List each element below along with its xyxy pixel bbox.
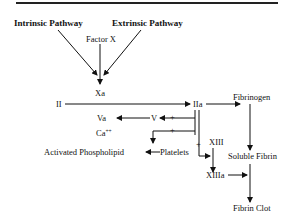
ii-label: II: [56, 100, 62, 109]
ca-label: Ca++: [96, 129, 112, 138]
pathway-arrows: [0, 0, 291, 220]
xa-label: Xa: [95, 89, 105, 98]
plus-sign-xiii: +: [196, 140, 201, 149]
soluble-fibrin-label: Soluble Fibrin: [228, 152, 277, 161]
va-label: Va: [97, 114, 106, 123]
xiiia-label: XIIIa: [206, 171, 224, 180]
fibrinogen-label: Fibrinogen: [233, 93, 270, 102]
plus-sign-v: +: [170, 113, 175, 122]
v-label: V: [151, 114, 157, 123]
ca-charge: ++: [105, 128, 111, 134]
platelets-label: Platelets: [160, 148, 189, 157]
extrinsic-pathway-label: Extrinsic Pathway: [112, 19, 183, 28]
fibrin-clot-label: Fibrin Clot: [233, 204, 271, 213]
plus-sign-platelets: +: [170, 126, 175, 135]
activated-phospholipid-label: Activated Phospholipid: [44, 148, 124, 157]
intrinsic-pathway-label: Intrinsic Pathway: [14, 19, 83, 28]
factor-x-label: Factor X: [86, 35, 116, 44]
iia-label: IIa: [193, 100, 202, 109]
xiii-label: XIII: [209, 138, 224, 147]
